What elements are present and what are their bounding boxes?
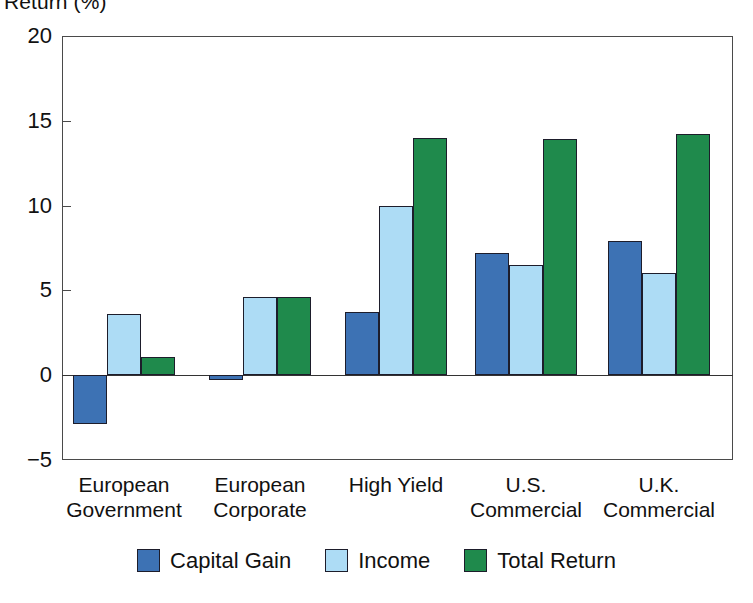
- y-tick-label: 0: [0, 364, 52, 386]
- legend-item: Total Return: [464, 549, 616, 572]
- y-tick-mark: [62, 290, 71, 291]
- y-tick-label: 20: [0, 25, 52, 47]
- bar: [379, 206, 413, 376]
- legend-item: Income: [325, 549, 430, 572]
- legend-label: Capital Gain: [170, 550, 291, 572]
- x-label-line1: U.K.: [639, 473, 680, 496]
- legend-label: Income: [358, 550, 430, 572]
- bar-chart: Return (%) 20151050−5 EuropeanGovernment…: [0, 0, 753, 603]
- legend-swatch-icon: [137, 549, 160, 572]
- y-tick-label: 10: [0, 195, 52, 217]
- legend-label: Total Return: [497, 550, 616, 572]
- legend-swatch-icon: [464, 549, 487, 572]
- bar: [243, 297, 277, 375]
- bar: [608, 241, 642, 375]
- y-tick-label: −5: [0, 449, 52, 471]
- y-tick-mark: [62, 121, 71, 122]
- bar: [345, 312, 379, 375]
- x-axis-group-label: U.K.Commercial: [549, 472, 753, 522]
- bar: [543, 139, 577, 375]
- y-tick-label: 5: [0, 279, 52, 301]
- bar: [209, 375, 243, 380]
- bar: [73, 375, 107, 424]
- bar: [107, 314, 141, 375]
- x-label-line2: Corporate: [150, 497, 370, 522]
- legend-swatch-icon: [325, 549, 348, 572]
- bar: [277, 297, 311, 375]
- legend: Capital GainIncomeTotal Return: [0, 549, 753, 572]
- bar: [413, 138, 447, 375]
- x-label-line2: Commercial: [549, 497, 753, 522]
- legend-item: Capital Gain: [137, 549, 291, 572]
- bar: [475, 253, 509, 375]
- bar: [676, 134, 710, 375]
- bar: [642, 273, 676, 375]
- bar: [509, 265, 543, 375]
- y-tick-label: 15: [0, 110, 52, 132]
- x-label-line1: U.S.: [506, 473, 547, 496]
- bar: [141, 357, 175, 376]
- y-tick-mark: [62, 206, 71, 207]
- zero-baseline: [62, 375, 733, 376]
